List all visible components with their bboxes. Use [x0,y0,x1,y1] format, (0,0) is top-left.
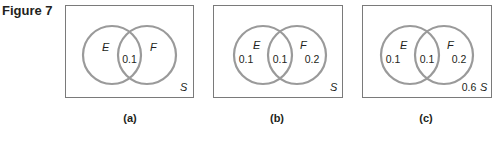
set-e-label: E [253,39,261,51]
venn-diagram-a: E F 0.1 S [65,5,194,98]
caption-c: (c) [419,112,432,124]
intersection-value: 0.1 [273,53,288,65]
venn-panel-b: E F 0.1 0.1 0.2 S [213,5,342,98]
set-e-label: E [102,41,110,53]
e-only-value: 0.1 [239,53,254,65]
e-only-value: 0.1 [386,53,401,65]
sample-space-box [66,6,194,98]
outside-value: 0.6 [462,81,477,93]
sample-space-box [214,6,343,98]
set-f-label: F [447,39,455,51]
set-f-label: F [150,41,158,53]
f-only-value: 0.2 [452,53,467,65]
venn-panel-a: E F 0.1 S [65,5,194,98]
caption-b: (b) [270,112,284,124]
intersection-value: 0.1 [420,53,435,65]
venn-diagram-c: E F 0.1 0.1 0.2 0.6 S [362,5,492,98]
f-only-value: 0.2 [305,53,320,65]
set-e-label: E [400,39,408,51]
universe-label: S [330,81,338,93]
caption-a: (a) [123,112,136,124]
intersection-value: 0.1 [122,53,137,65]
venn-diagram-b: E F 0.1 0.1 0.2 S [213,5,343,98]
universe-label: S [480,81,488,93]
universe-label: S [180,81,188,93]
figure-title: Figure 7 [2,3,53,18]
venn-panel-c: E F 0.1 0.1 0.2 0.6 S [362,5,491,98]
set-f-label: F [300,39,308,51]
